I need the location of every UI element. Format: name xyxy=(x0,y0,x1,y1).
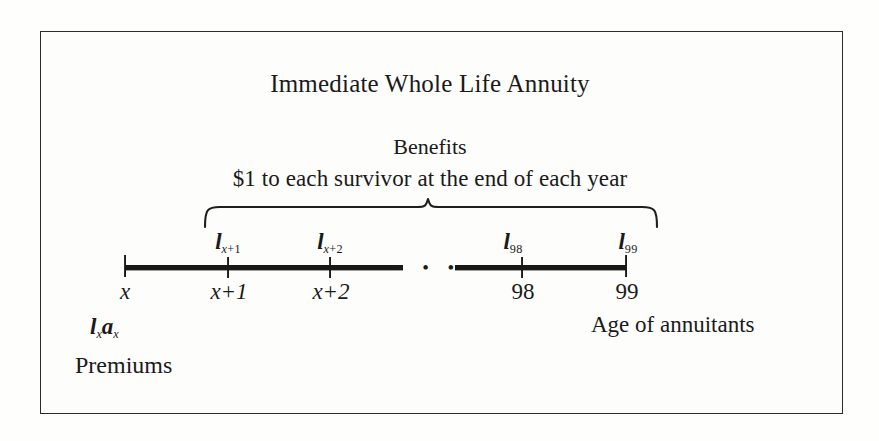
benefits-description: $1 to each survivor at the end of each y… xyxy=(233,167,628,190)
survivor-label-x-plus-1: lx+1 xyxy=(215,230,241,253)
survivor-label-98: l98 xyxy=(503,230,522,253)
survivor-label-x-plus-2: lx+2 xyxy=(317,230,343,253)
figure-title: Immediate Whole Life Annuity xyxy=(270,71,590,96)
age-label-x-plus-1: x+1 xyxy=(210,280,247,303)
timeline-ellipsis: • • • xyxy=(397,258,461,277)
benefits-brace xyxy=(198,196,664,230)
age-label-x: x xyxy=(120,280,130,303)
premium-symbol: lxax xyxy=(90,315,119,338)
timeline-axis xyxy=(110,252,650,286)
scanned-page: Immediate Whole Life Annuity Benefits $1… xyxy=(0,0,879,441)
survivor-label-99: l99 xyxy=(618,230,637,253)
benefits-heading: Benefits xyxy=(393,136,466,158)
premium-sub-l: x xyxy=(96,327,101,341)
age-label-98: 98 xyxy=(512,280,535,303)
age-label-99: 99 xyxy=(616,280,639,303)
premium-sub-a: x xyxy=(113,327,118,341)
axis-caption: Age of annuitants xyxy=(591,313,755,336)
age-label-x-plus-2: x+2 xyxy=(312,280,349,303)
premiums-label: Premiums xyxy=(75,353,172,377)
premium-letter-a: a xyxy=(102,314,114,339)
